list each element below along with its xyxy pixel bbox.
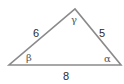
angle-label-apex: γ <box>71 14 77 25</box>
side-label-bottom: 8 <box>63 70 69 82</box>
angle-label-right: α <box>104 53 111 64</box>
side-label-right: 5 <box>99 27 105 39</box>
side-label-left: 6 <box>33 27 39 39</box>
angle-label-left: β <box>26 52 32 63</box>
triangle-diagram: 6 5 8 γ β α <box>0 0 124 84</box>
